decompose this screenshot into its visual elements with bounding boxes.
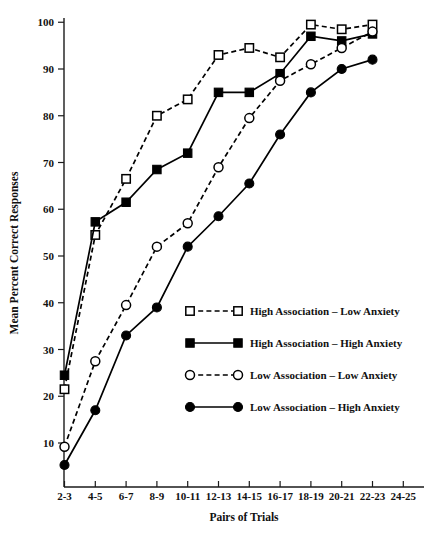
x-tick-label: 16-17: [267, 490, 293, 502]
series-1: [60, 30, 376, 380]
chart-page: 102030405060708090100 2-34-56-78-910-111…: [0, 0, 446, 534]
marker-filled-circle: [337, 65, 346, 74]
marker-filled-square: [153, 165, 161, 173]
marker-open-circle: [234, 371, 243, 380]
marker-filled-circle: [186, 403, 195, 412]
marker-filled-square: [245, 88, 253, 96]
legend-item-2[interactable]: Low Association – Low Anxiety: [186, 369, 398, 381]
x-tick-label: 4-5: [88, 490, 103, 502]
x-tick-label: 12-13: [206, 490, 232, 502]
legend-item-1[interactable]: High Association – High Anxiety: [186, 337, 403, 349]
marker-open-square: [122, 175, 130, 183]
marker-filled-square: [214, 88, 222, 96]
x-tick-label: 20-21: [329, 490, 355, 502]
marker-filled-square: [91, 218, 99, 226]
legend-item-3[interactable]: Low Association – High Anxiety: [186, 401, 401, 413]
marker-filled-circle: [152, 303, 161, 312]
marker-open-circle: [183, 219, 192, 228]
y-tick-label: 100: [38, 16, 55, 28]
marker-open-square: [338, 25, 346, 33]
marker-filled-circle: [214, 212, 223, 221]
x-tick-label: 8-9: [150, 490, 165, 502]
marker-filled-circle: [122, 331, 131, 340]
marker-filled-circle: [91, 406, 100, 415]
marker-filled-square: [122, 198, 130, 206]
marker-open-square: [245, 44, 253, 52]
marker-open-square: [186, 307, 194, 315]
line-chart: 102030405060708090100 2-34-56-78-910-111…: [0, 0, 446, 534]
marker-open-circle: [152, 242, 161, 251]
marker-filled-circle: [368, 55, 377, 64]
marker-open-circle: [368, 27, 377, 36]
y-tick-label: 10: [43, 437, 55, 449]
marker-filled-circle: [183, 242, 192, 251]
marker-open-circle: [122, 301, 131, 310]
marker-filled-square: [234, 339, 242, 347]
y-tick-label: 60: [43, 203, 55, 215]
marker-open-square: [307, 20, 315, 28]
x-tick-label: 24-25: [390, 490, 416, 502]
marker-filled-square: [186, 339, 194, 347]
marker-filled-circle: [234, 403, 243, 412]
y-tick-label: 70: [43, 157, 55, 169]
legend-label: High Association – Low Anxiety: [250, 305, 400, 317]
marker-open-circle: [306, 60, 315, 69]
marker-open-circle: [186, 371, 195, 380]
x-tick-label: 10-11: [175, 490, 200, 502]
marker-filled-circle: [245, 179, 254, 188]
legend-item-0[interactable]: High Association – Low Anxiety: [186, 305, 400, 317]
x-tick-label: 14-15: [236, 490, 262, 502]
x-tick-label: 22-23: [360, 490, 386, 502]
y-axis-ticks: 102030405060708090100: [38, 16, 65, 449]
x-axis-title: Pairs of Trials: [209, 511, 279, 523]
x-tick-label: 18-19: [298, 490, 324, 502]
marker-filled-square: [307, 32, 315, 40]
marker-filled-circle: [276, 130, 285, 139]
marker-filled-circle: [306, 88, 315, 97]
chart-legend: High Association – Low AnxietyHigh Assoc…: [186, 305, 403, 413]
y-tick-label: 20: [43, 390, 55, 402]
marker-open-square: [234, 307, 242, 315]
series-line: [65, 34, 373, 375]
marker-open-circle: [337, 43, 346, 52]
marker-open-square: [276, 53, 284, 61]
marker-filled-circle: [60, 460, 69, 469]
marker-open-square: [184, 95, 192, 103]
marker-open-circle: [214, 163, 223, 172]
y-tick-label: 30: [43, 344, 55, 356]
y-tick-label: 80: [43, 110, 55, 122]
marker-filled-square: [184, 149, 192, 157]
y-tick-label: 50: [43, 250, 55, 262]
y-tick-label: 90: [43, 63, 55, 75]
y-axis-title: Mean Percent Correct Responses: [8, 171, 21, 334]
series-line: [65, 25, 373, 390]
x-tick-label: 2-3: [57, 490, 72, 502]
marker-open-circle: [245, 114, 254, 123]
marker-filled-square: [60, 371, 68, 379]
legend-label: Low Association – Low Anxiety: [250, 369, 398, 381]
marker-open-square: [60, 385, 68, 393]
marker-open-circle: [276, 76, 285, 85]
x-axis-ticks: 2-34-56-78-910-1112-1314-1516-1718-1920-…: [57, 481, 416, 502]
marker-open-circle: [60, 442, 69, 451]
legend-label: Low Association – High Anxiety: [250, 401, 400, 413]
y-tick-label: 40: [43, 297, 55, 309]
marker-open-square: [153, 112, 161, 120]
marker-open-square: [214, 51, 222, 59]
x-tick-label: 6-7: [119, 490, 134, 502]
marker-open-circle: [91, 357, 100, 366]
legend-label: High Association – High Anxiety: [250, 337, 403, 349]
